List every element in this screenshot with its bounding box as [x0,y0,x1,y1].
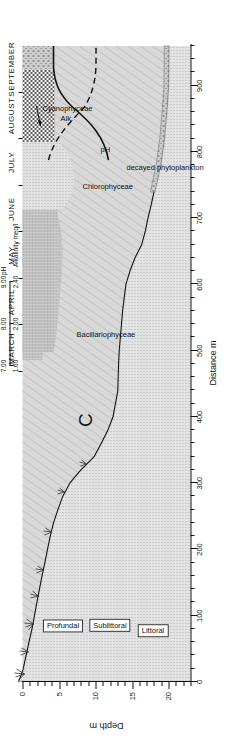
month-label-april: APRIL [6,289,15,315]
y-tick-0 [22,682,23,689]
y-tick-6 [66,682,67,686]
x-tick-label-800: 800 [194,146,203,159]
month-label-september: SEPTEMBER [6,42,15,97]
x-tick-820 [190,138,194,139]
y-tick-11 [102,682,103,686]
x-tick-560 [190,310,194,311]
ph-tick-label-1: 8.00 [0,318,6,331]
x-tick-620 [190,270,194,271]
x-tick-640 [190,257,194,258]
x-axis-title: Distance m [207,340,217,385]
y-tick-label-0: 0 [18,692,27,696]
x-tick-420 [190,403,194,404]
x-tick-960 [190,45,194,46]
y-tick-17 [146,682,147,686]
y-tick-8 [80,682,81,686]
cross-section-svg [22,46,190,682]
x-tick-180 [190,562,194,563]
x-tick-40 [190,655,194,656]
x-tick-label-200: 200 [194,543,203,556]
annotation-ph: pH [100,145,110,154]
ph-scale-bar [9,282,10,366]
y-tick-13 [117,682,118,686]
zone-label-sublittoral: Sublittoral [89,619,130,632]
ph-tick-label-0: 7.00 [0,360,6,373]
month-divider-march [18,371,22,372]
month-divider-september [18,92,22,93]
lake-cross-section-figure: C Littoral Sublittoral Profundal Bacilla… [0,0,237,756]
month-divider-may [18,278,22,279]
plot-area: C Littoral Sublittoral Profundal Bacilla… [22,46,190,682]
y-tick-label-10: 10 [91,692,100,700]
y-tick-label-15: 15 [127,692,136,700]
y-tick-label-20: 20 [164,692,173,700]
y-tick-9 [88,682,89,686]
y-tick-10 [95,682,96,689]
x-tick-220 [190,535,194,536]
y-tick-label-5: 5 [54,692,63,696]
y-tick-12 [110,682,111,686]
x-tick-label-100: 100 [194,609,203,622]
x-tick-120 [190,602,194,603]
band-cyanophyceae-bloom [22,46,52,70]
month-divider-june [18,231,22,232]
x-tick-680 [190,231,194,232]
x-tick-540 [190,323,194,324]
x-tick-label-900: 900 [194,79,203,92]
y-axis-title: Depth m [89,721,123,731]
x-tick-580 [190,297,194,298]
x-tick-80 [190,628,194,629]
alk-tick-label-1: 2.00 [11,318,18,331]
y-tick-16 [139,682,140,686]
zone-label-profundal: Profundal [42,619,82,632]
alk-tick-label-0: 1.60 [11,360,18,373]
y-tick-19 [161,682,162,686]
y-tick-15 [132,682,133,689]
y-tick-14 [124,682,125,686]
y-tick-2 [37,682,38,686]
x-tick-440 [190,390,194,391]
month-divider-july [18,185,22,186]
ph-tick-label-2: 9.00 [0,276,6,289]
x-tick-460 [190,376,194,377]
panel-letter: C [74,413,96,427]
annotation-alk: Alk. [60,114,73,123]
band-label-chlorophyceae: Chlorophyceae [82,182,132,191]
y-tick-18 [153,682,154,686]
x-tick-label-700: 700 [194,212,203,225]
x-tick-20 [190,668,194,669]
x-tick-60 [190,641,194,642]
x-tick-660 [190,244,194,245]
x-tick-940 [190,58,194,59]
month-label-june: JUNE [6,197,15,220]
x-tick-480 [190,363,194,364]
band-label-bacillariophyceae: Bacillariophyceae [76,330,135,339]
x-tick-label-500: 500 [194,344,203,357]
figure-frame: C Littoral Sublittoral Profundal Bacilla… [0,0,237,756]
y-axis-line [21,681,191,682]
ph-scale-name: pH [0,267,6,275]
month-label-july: JULY [6,152,15,173]
x-tick-340 [190,456,194,457]
band-bacillariophyceae-2 [22,210,62,352]
x-tick-240 [190,522,194,523]
x-tick-260 [190,509,194,510]
x-tick-840 [190,125,194,126]
x-tick-520 [190,337,194,338]
x-tick-320 [190,469,194,470]
x-tick-920 [190,72,194,73]
x-tick-label-600: 600 [194,278,203,291]
y-tick-1 [29,682,30,686]
x-tick-720 [190,204,194,205]
zone-label-littoral: Littoral [137,624,168,637]
y-tick-4 [51,682,52,686]
x-tick-label-0: 0 [194,680,203,684]
month-label-august: AUGUST [6,97,15,134]
x-tick-160 [190,575,194,576]
x-tick-860 [190,111,194,112]
y-tick-23 [190,682,191,686]
alk-scale-name: Alkalinity meq/l [11,224,18,267]
y-tick-7 [73,682,74,686]
month-divider-august [18,138,22,139]
month-divider-april [18,324,22,325]
